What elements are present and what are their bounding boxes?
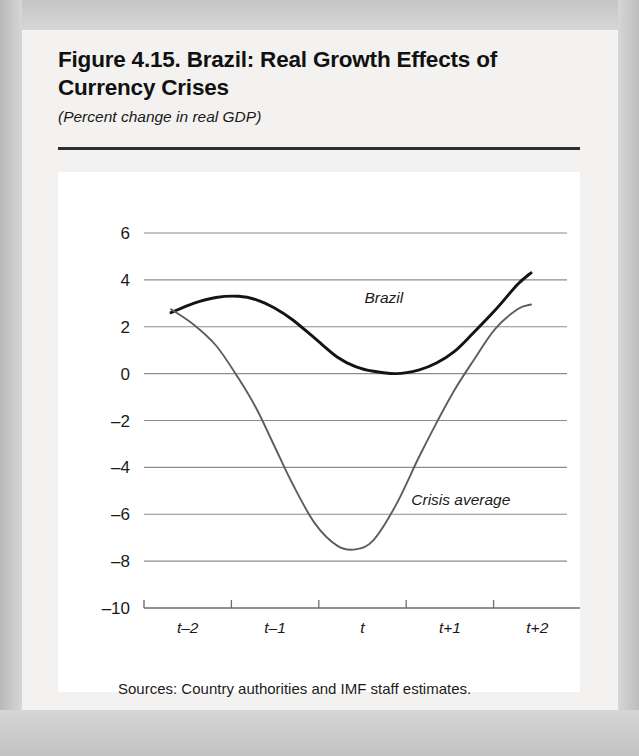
x-tick-label: t–2 bbox=[177, 619, 199, 636]
gridline-group bbox=[144, 233, 567, 561]
y-tick-label: 2 bbox=[121, 318, 130, 337]
page-bottom-margin bbox=[0, 710, 639, 756]
x-tick-label: t+2 bbox=[526, 619, 548, 636]
series-group bbox=[171, 273, 531, 550]
y-tick-label: 0 bbox=[121, 365, 130, 384]
y-tick-label: –10 bbox=[102, 599, 130, 618]
header-divider bbox=[58, 147, 580, 150]
series-label-crisis-average: Crisis average bbox=[411, 491, 510, 508]
y-tick-label: –6 bbox=[111, 505, 130, 524]
y-axis-tick-labels: 6420–2–4–6–8–10 bbox=[102, 224, 130, 618]
x-tick-label: t bbox=[360, 619, 365, 636]
line-chart: 6420–2–4–6–8–10 t–2t–1tt+1t+2 BrazilCris… bbox=[58, 172, 580, 692]
source-note: Sources: Country authorities and IMF sta… bbox=[118, 680, 471, 697]
figure-page: Figure 4.15. Brazil: Real Growth Effects… bbox=[0, 0, 639, 756]
series-line-crisis-average bbox=[171, 304, 531, 549]
figure-title: Figure 4.15. Brazil: Real Growth Effects… bbox=[58, 46, 578, 102]
y-tick-label: –2 bbox=[111, 412, 130, 431]
x-axis bbox=[144, 600, 580, 608]
y-tick-label: 4 bbox=[121, 271, 130, 290]
y-tick-label: 6 bbox=[121, 224, 130, 243]
x-tick-label: t+1 bbox=[439, 619, 461, 636]
y-tick-label: –8 bbox=[111, 552, 130, 571]
series-label-brazil: Brazil bbox=[365, 289, 404, 306]
page-left-margin bbox=[0, 0, 22, 756]
x-tick-label: t–1 bbox=[264, 619, 286, 636]
page-right-margin bbox=[618, 0, 639, 756]
plot-panel: 6420–2–4–6–8–10 t–2t–1tt+1t+2 BrazilCris… bbox=[58, 172, 580, 692]
figure-subtitle: (Percent change in real GDP) bbox=[58, 108, 578, 126]
y-tick-label: –4 bbox=[111, 458, 130, 477]
x-axis-tick-labels: t–2t–1tt+1t+2 bbox=[177, 619, 549, 636]
figure-header: Figure 4.15. Brazil: Real Growth Effects… bbox=[58, 46, 578, 126]
figure-card: Figure 4.15. Brazil: Real Growth Effects… bbox=[22, 30, 618, 710]
page-top-margin bbox=[0, 0, 639, 30]
series-annotation-group: BrazilCrisis average bbox=[365, 289, 511, 508]
